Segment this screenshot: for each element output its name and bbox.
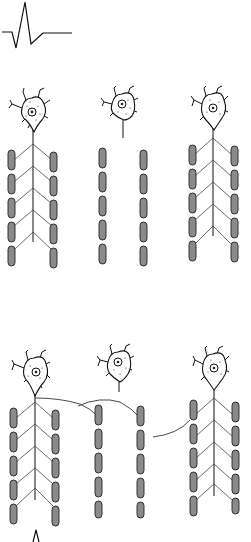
- neuron-soma-icon: [193, 346, 229, 390]
- neuron-soma-icon: [9, 88, 50, 132]
- action-potential-waveform-icon: [2, 2, 72, 48]
- panel-after-reinnervation: [10, 344, 239, 526]
- neuron-soma-icon: [12, 350, 50, 396]
- motor-neuron-1: [10, 350, 59, 526]
- reinnervated-muscle-fibers: [95, 405, 144, 518]
- denervated-muscle-fibers: [99, 148, 147, 266]
- neuron-soma-icon: [191, 86, 228, 130]
- neuron-soma-icon: [101, 86, 138, 120]
- motor-neuron-2-lesioned: [99, 86, 147, 266]
- motor-unit-diagram: [0, 0, 251, 542]
- motor-neuron-2-lesioned: [95, 344, 144, 518]
- small-waveform-icon: [33, 530, 39, 542]
- motor-neuron-3: [189, 86, 238, 262]
- motor-neuron-1: [8, 88, 57, 268]
- motor-neuron-3: [190, 346, 239, 516]
- neuron-soma-icon: [97, 344, 134, 382]
- panel-before-reinnervation: [8, 86, 238, 268]
